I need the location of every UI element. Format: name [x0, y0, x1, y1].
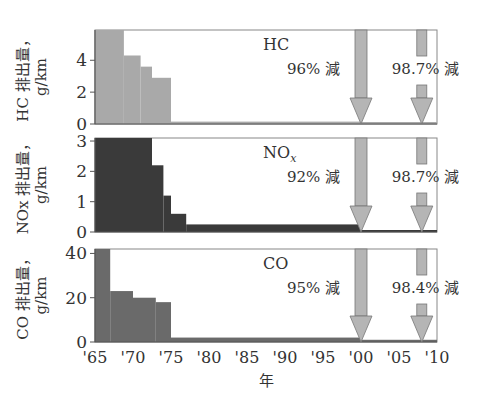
- y-axis-label: CO 排出量，: [14, 251, 32, 340]
- step-bar: [171, 214, 186, 232]
- down-arrow-icon: [411, 206, 433, 232]
- y-tick-label: 2: [76, 161, 87, 181]
- step-bar: [163, 196, 171, 232]
- step-bar: [95, 249, 110, 342]
- panel-label: NOx: [263, 143, 297, 165]
- step-bar: [186, 224, 361, 232]
- panel-label: CO: [263, 254, 288, 273]
- reduction-annotation: 98.7% 減: [392, 60, 459, 78]
- x-tick-label: '75: [159, 348, 184, 367]
- reduction-annotation: 98.7% 減: [392, 168, 459, 186]
- x-tick-label: '05: [387, 348, 412, 367]
- emission-chart: 024HC96% 減98.7% 減HC 排出量，g/km0123NOx92% 減…: [0, 0, 478, 416]
- reduction-annotation: 92% 減: [287, 168, 340, 186]
- y-tick-label: 3: [76, 131, 87, 151]
- y-axis-unit: g/km: [32, 58, 50, 96]
- reduction-annotation: 96% 減: [287, 60, 340, 78]
- reduction-annotation: 95% 減: [287, 279, 340, 297]
- x-tick-label: '00: [349, 348, 374, 367]
- x-axis-label: 年: [259, 372, 274, 390]
- step-bar: [133, 298, 156, 342]
- y-axis-label: HC 排出量，: [14, 32, 32, 121]
- step-bar: [171, 338, 361, 342]
- y-tick-label: 40: [65, 243, 87, 263]
- step-bar: [152, 165, 163, 232]
- panel-label: HC: [263, 35, 289, 54]
- y-tick-label: 20: [65, 288, 87, 308]
- step-bar: [156, 302, 171, 342]
- y-axis-unit: g/km: [32, 166, 50, 204]
- step-bar: [95, 30, 124, 124]
- down-arrow-icon: [350, 98, 372, 124]
- step-bar: [141, 67, 152, 124]
- x-tick-label: '10: [425, 348, 450, 367]
- x-tick-label: '65: [83, 348, 108, 367]
- x-tick-label: '90: [273, 348, 298, 367]
- x-tick-label: '95: [311, 348, 336, 367]
- y-tick-label: 1: [76, 192, 87, 212]
- step-bar: [152, 78, 171, 124]
- y-tick-label: 4: [76, 50, 87, 70]
- down-arrow-icon: [411, 98, 433, 124]
- step-bar: [110, 291, 133, 342]
- x-tick-label: '70: [121, 348, 146, 367]
- x-tick-label: '85: [235, 348, 260, 367]
- reduction-annotation: 98.4% 減: [392, 279, 459, 297]
- x-tick-label: '80: [197, 348, 222, 367]
- y-axis-unit: g/km: [32, 277, 50, 315]
- down-arrow-icon: [411, 316, 433, 342]
- y-tick-label: 0: [76, 222, 87, 242]
- step-bar: [124, 55, 141, 124]
- y-axis-label: NOx 排出量，: [14, 136, 32, 235]
- y-tick-label: 2: [76, 82, 87, 102]
- step-bar: [95, 138, 152, 232]
